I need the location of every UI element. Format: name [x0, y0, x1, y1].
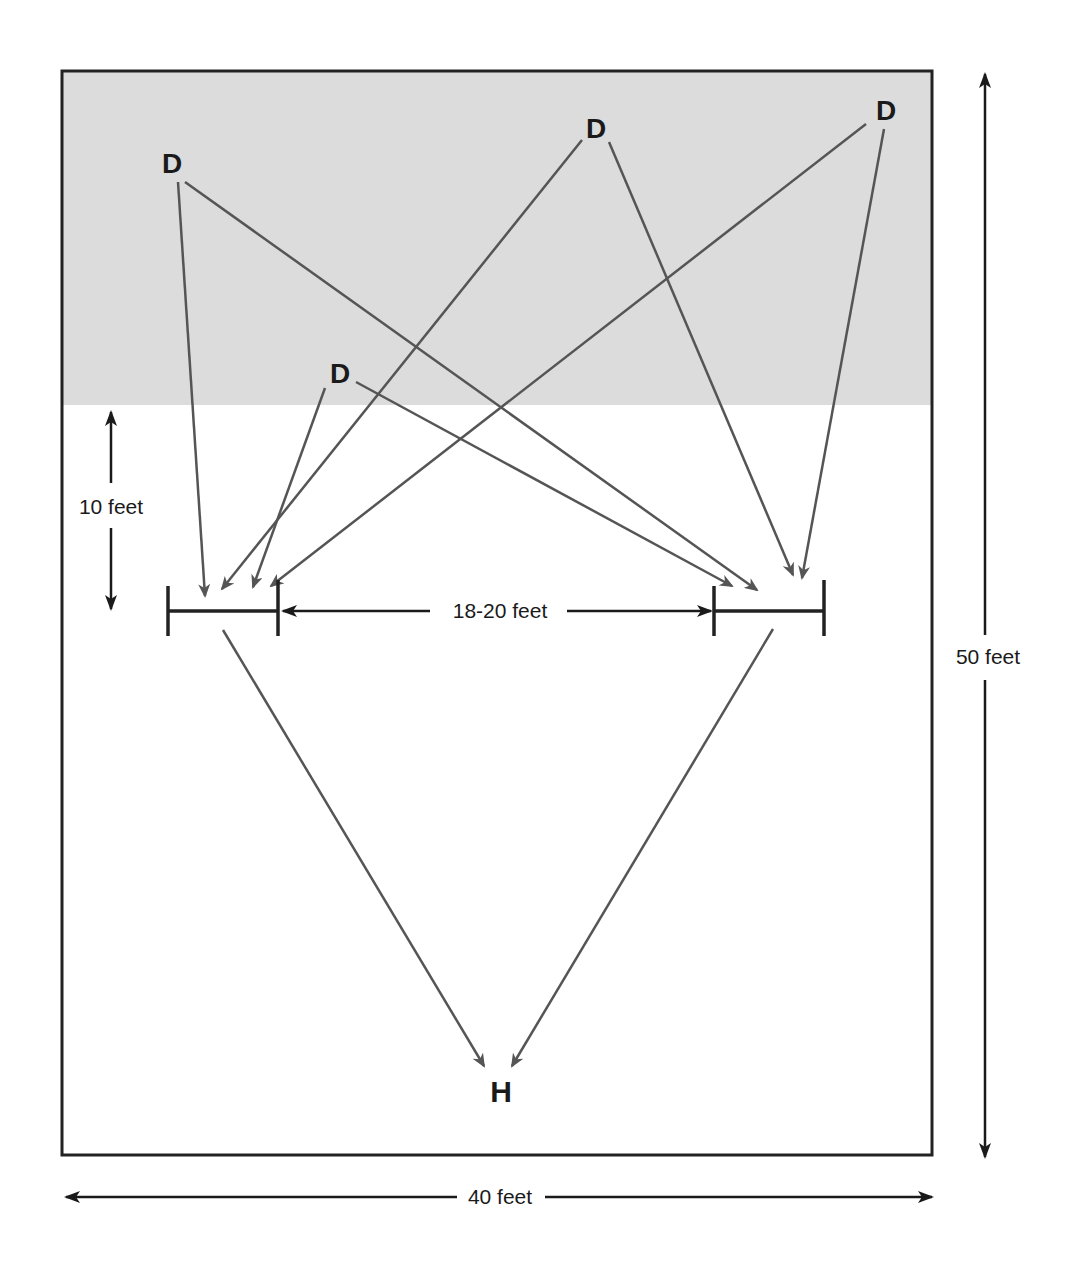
- length-label: 50 feet: [956, 645, 1020, 668]
- shaded-zone: [62, 71, 932, 405]
- pass-arrow-d4-right: [356, 382, 732, 586]
- defender-marker-2: D: [586, 113, 606, 144]
- field-diagram: 18-20 feet 10 feet 50 feet 40 feet D D D…: [0, 0, 1075, 1264]
- defender-marker-3: D: [876, 95, 896, 126]
- right-goal: [714, 580, 824, 636]
- pass-arrow-d4-left: [253, 388, 325, 587]
- pass-arrow-left-goal-to-h: [223, 630, 484, 1066]
- gap-label: 18-20 feet: [453, 599, 548, 622]
- defender-marker-4: D: [330, 358, 350, 389]
- width-label: 40 feet: [468, 1185, 532, 1208]
- home-marker: H: [490, 1075, 512, 1108]
- defender-marker-1: D: [162, 148, 182, 179]
- depth-label: 10 feet: [79, 495, 143, 518]
- pass-arrow-right-goal-to-h: [512, 629, 773, 1066]
